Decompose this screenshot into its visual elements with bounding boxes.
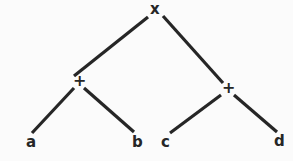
tree-edges-layer [0,0,293,161]
node-root-multiply: x [150,2,160,17]
edge-left-op-to-leaf-a [32,88,74,133]
expression-tree-diagram: x + + a b c d [0,0,293,161]
edge-root-to-left-op [74,17,148,76]
node-leaf-a: a [26,135,36,150]
node-left-plus: + [73,73,86,89]
edge-root-to-right-op [163,16,223,83]
edge-right-op-to-leaf-d [234,95,277,132]
node-leaf-c: c [161,135,170,150]
node-leaf-b: b [132,135,143,150]
edge-left-op-to-leaf-b [84,88,134,132]
edge-right-op-to-leaf-c [170,95,221,133]
node-right-plus: + [222,80,235,96]
node-leaf-d: d [274,134,285,149]
